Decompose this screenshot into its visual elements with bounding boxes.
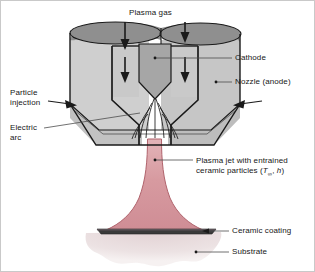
label-electric-arc-line2: arc <box>10 133 21 143</box>
ceramic-coating-bar <box>97 229 216 234</box>
torch-top-ellipse <box>70 22 161 44</box>
torch-top-ellipse-right <box>160 23 241 45</box>
label-particle-injection-line2: injection <box>10 98 40 108</box>
label-cathode: Cathode <box>235 53 266 63</box>
label-substrate: Substrate <box>232 247 267 257</box>
label-nozzle-anode: Nozzle (anode) <box>235 77 291 87</box>
plasma-jet-text-post: ) <box>281 166 284 175</box>
label-plasma-jet-line1: Plasma jet with entrained <box>196 156 288 166</box>
label-particle-injection-line1: Particle <box>10 88 37 98</box>
label-ceramic-coating: Ceramic coating <box>232 226 291 236</box>
label-plasma-jet-line2: ceramic particles (T∞, h) <box>196 166 284 179</box>
plasma-jet-text-pre: ceramic particles ( <box>196 166 263 175</box>
label-electric-arc-line1: Electric <box>10 123 37 133</box>
label-plasma-gas: Plasma gas <box>129 8 172 18</box>
